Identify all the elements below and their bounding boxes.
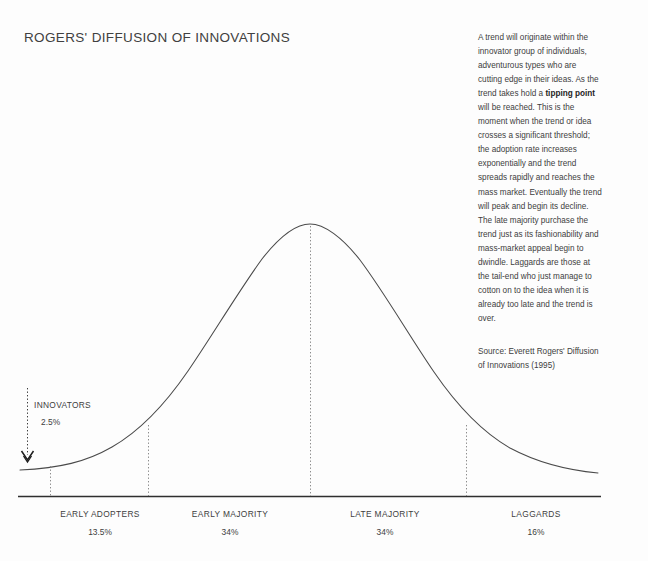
category-late-majority: LATE MAJORITY 34% [305,509,465,537]
innovators-label: INNOVATORS [34,400,154,410]
innovators-annotation: INNOVATORS 2.5% [34,400,154,427]
tipping-point-emphasis: tipping point [545,89,595,98]
category-early-majority: EARLY MAJORITY 34% [150,509,310,537]
paragraph-text-part2: will be reached. This is the moment when… [478,103,602,323]
category-percentage: 34% [150,519,310,537]
category-label: LAGGARDS [456,509,616,519]
body-paragraph: A trend will originate within the innova… [478,31,602,326]
category-label: LATE MAJORITY [305,509,465,519]
side-text-column: A trend will originate within the innova… [478,31,602,373]
diffusion-of-innovations-figure: ROGERS' DIFFUSION OF INNOVATIONS INNOVAT… [0,0,648,561]
category-percentage: 34% [305,519,465,537]
category-percentage: 16% [456,519,616,537]
category-label: EARLY MAJORITY [150,509,310,519]
category-laggards: LAGGARDS 16% [456,509,616,537]
innovators-percentage: 2.5% [34,410,154,427]
source-citation: Source: Everett Rogers' Diffusion of Inn… [478,326,602,373]
